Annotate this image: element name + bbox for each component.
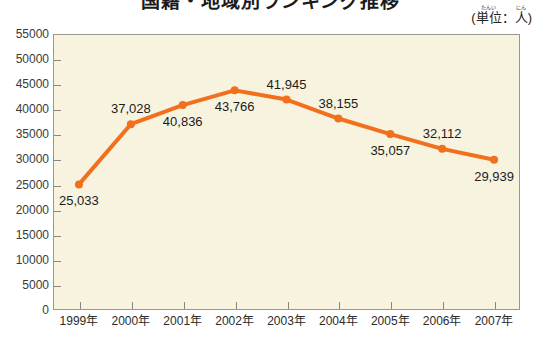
y-tick-label: 40000 bbox=[1, 103, 49, 115]
data-value-label: 43,766 bbox=[195, 100, 275, 114]
page-title: 国籍・地域別ランキング推移 bbox=[0, 0, 540, 13]
data-value-label: 29,939 bbox=[454, 170, 534, 184]
y-tick-label: 55000 bbox=[1, 28, 49, 40]
unit-colon: ： bbox=[502, 11, 515, 25]
x-tick bbox=[236, 302, 237, 309]
data-value-label: 32,112 bbox=[402, 127, 482, 141]
unit-caption: (たんい単位：にん人) bbox=[471, 5, 532, 25]
x-tick bbox=[339, 302, 340, 309]
x-tick bbox=[495, 302, 496, 309]
y-tick bbox=[54, 211, 61, 212]
y-tick-label: 15000 bbox=[1, 229, 49, 241]
y-tick bbox=[54, 85, 61, 86]
y-tick bbox=[54, 236, 61, 237]
y-tick-label: 0 bbox=[1, 304, 49, 316]
x-tick bbox=[443, 302, 444, 309]
unit-word-tani: たんい単位 bbox=[476, 5, 502, 25]
unit-word-nin: にん人 bbox=[515, 5, 528, 25]
data-value-label: 38,155 bbox=[298, 97, 378, 111]
data-value-label: 41,945 bbox=[247, 78, 327, 92]
x-tick bbox=[80, 302, 81, 309]
data-value-label: 37,028 bbox=[91, 102, 171, 116]
y-tick bbox=[54, 110, 61, 111]
x-tick bbox=[391, 302, 392, 309]
y-tick-label: 25000 bbox=[1, 179, 49, 191]
y-tick bbox=[54, 286, 61, 287]
x-tick bbox=[184, 302, 185, 309]
plot-area bbox=[53, 34, 520, 310]
y-tick bbox=[54, 186, 61, 187]
y-tick-label: 5000 bbox=[1, 279, 49, 291]
y-tick bbox=[54, 261, 61, 262]
y-tick-label: 45000 bbox=[1, 78, 49, 90]
x-tick-label: 2007年 bbox=[464, 314, 524, 328]
x-axis: 1999年2000年2001年2002年2003年2004年2005年2006年… bbox=[53, 314, 520, 334]
y-axis: 0500010000150002000025000300003500040000… bbox=[0, 34, 49, 310]
y-tick-label: 30000 bbox=[1, 153, 49, 165]
unit-close-paren: ) bbox=[528, 11, 532, 25]
y-tick bbox=[54, 135, 61, 136]
y-tick-label: 35000 bbox=[1, 128, 49, 140]
x-tick bbox=[132, 302, 133, 309]
unit-base-tani: 単位 bbox=[476, 11, 502, 25]
data-value-label: 40,836 bbox=[143, 115, 223, 129]
y-tick-label: 50000 bbox=[1, 53, 49, 65]
y-tick bbox=[54, 160, 61, 161]
y-tick bbox=[54, 60, 61, 61]
unit-base-nin: 人 bbox=[515, 11, 528, 25]
y-tick-label: 10000 bbox=[1, 254, 49, 266]
data-value-label: 35,057 bbox=[350, 144, 430, 158]
data-value-label: 25,033 bbox=[39, 194, 119, 208]
x-tick bbox=[288, 302, 289, 309]
